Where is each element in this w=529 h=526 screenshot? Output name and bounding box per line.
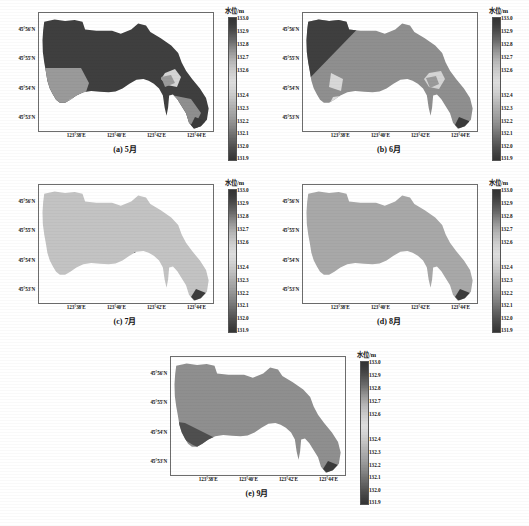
panel-c-region-main-body: [39, 185, 213, 303]
panel-d-cbtick-10: 132.0: [501, 315, 513, 321]
panel-b-plot-frame: [302, 12, 478, 132]
panel-e-cbtick-3: 132.7: [369, 398, 381, 404]
panel-a-cbtick-9: 132.1: [237, 130, 249, 136]
panel-b-ytick-0: 45°56'N: [282, 26, 302, 32]
panel-a-xtick-3: 123°44'E: [187, 132, 206, 138]
panel-d-caption: (d) 8月: [302, 315, 476, 326]
panel-b-cbtick-8: 132.2: [501, 118, 513, 124]
panel-b-ytick-3: 45°53'N: [282, 114, 302, 120]
panel-d-cbtick-4: 132.6: [501, 239, 513, 245]
panel-b-xtick-2: 123°42'E: [411, 132, 430, 138]
panel-a-xtick-2: 123°42'E: [147, 132, 166, 138]
panel-e-lake-shape: [171, 357, 345, 475]
panel-a-cbtick-8: 132.2: [237, 118, 249, 124]
panel-a-cbtick-2: 132.8: [237, 41, 249, 47]
panel-b-inner: 45°56'N 45°55'N 45°54'N 45°53'N 123°38'E…: [264, 0, 529, 150]
panel-b-cbtick-1: 132.9: [501, 28, 513, 34]
panel-b-ytick-2: 45°54'N: [282, 85, 302, 91]
panel-a-ytick-1: 45°55'N: [18, 55, 38, 61]
panel-a-region-southwest-lobe: [39, 68, 89, 105]
panel-e-xtick-3: 123°44'E: [319, 476, 338, 482]
panel-c-cbtick-8: 132.2: [237, 290, 249, 296]
panel-e-cbtick-4: 132.6: [369, 411, 381, 417]
panel-c-cbtick-6: 132.4: [237, 264, 249, 270]
panel-c-xaxis: 123°38'E 123°40'E 123°42'E 123°44'E: [38, 302, 212, 314]
panel-a-colorbar-title: 水位/m: [225, 6, 244, 15]
panel-b-xtick-0: 123°38'E: [331, 132, 350, 138]
panel-e-cbtick-10: 132.0: [369, 487, 381, 493]
panel-a-ytick-0: 45°56'N: [18, 26, 38, 32]
panel-e-ytick-1: 45°55'N: [150, 399, 170, 405]
panel-a-cbtick-7: 132.3: [237, 105, 249, 111]
panel-c-lake-shape: [39, 185, 213, 303]
panel-b-cbtick-2: 132.8: [501, 41, 513, 47]
panel-b-cbtick-11: 131.9: [501, 155, 513, 161]
panel-d-cbtick-9: 132.1: [501, 302, 513, 308]
panel-c-xtick-1: 123°40'E: [107, 304, 126, 310]
panel-c-cbtick-0: 133.0: [237, 187, 249, 193]
panel-e-cbtick-6: 132.4: [369, 436, 381, 442]
panel-e-plot-frame: [170, 356, 346, 476]
panel-a-may: 45°56'N 45°55'N 45°54'N 45°53'N 123°38'E…: [0, 0, 265, 168]
panel-c-cbtick-1: 132.9: [237, 200, 249, 206]
panel-d-colorbar-title: 水位/m: [489, 178, 508, 187]
panel-e-raster: [171, 357, 345, 475]
panel-d-plot-frame: [302, 184, 478, 304]
panel-c-xtick-3: 123°44'E: [187, 304, 206, 310]
panel-d-raster: [303, 185, 477, 303]
panel-d-cbtick-6: 132.4: [501, 264, 513, 270]
panel-d-colorbar-ticks: 133.0 132.9 132.8 132.7 132.6 132.4 132.…: [500, 189, 529, 331]
panel-a-cbtick-1: 132.9: [237, 28, 249, 34]
panel-b-raster: [303, 13, 477, 131]
panel-e-cbtick-8: 132.2: [369, 462, 381, 468]
panel-a-ytick-2: 45°54'N: [18, 85, 38, 91]
panel-c-region-center-speck: [134, 252, 136, 254]
panel-e-cbtick-1: 132.9: [369, 372, 381, 378]
panel-b-cbtick-7: 132.3: [501, 105, 513, 111]
panel-d-august: 45°56'N 45°55'N 45°54'N 45°53'N 123°38'E…: [264, 172, 529, 340]
panel-c-cbtick-4: 132.6: [237, 239, 249, 245]
panel-a-xtick-1: 123°40'E: [107, 132, 126, 138]
panel-e-xtick-2: 123°42'E: [279, 476, 298, 482]
panel-c-cbtick-2: 132.8: [237, 213, 249, 219]
panel-d-cbtick-3: 132.7: [501, 226, 513, 232]
panel-d-cbtick-1: 132.9: [501, 200, 513, 206]
panel-d-ytick-3: 45°53'N: [282, 286, 302, 292]
panel-b-cbtick-0: 133.0: [501, 15, 513, 21]
panel-a-inner: 45°56'N 45°55'N 45°54'N 45°53'N 123°38'E…: [0, 0, 265, 150]
panel-c-cbtick-11: 131.9: [237, 327, 249, 333]
panel-d-ytick-0: 45°56'N: [282, 198, 302, 204]
panel-d-cbtick-2: 132.8: [501, 213, 513, 219]
panel-e-cbtick-0: 133.0: [369, 359, 381, 365]
panel-a-lake-shape: [39, 13, 213, 131]
panel-c-inner: 45°56'N 45°55'N 45°54'N 45°53'N 123°38'E…: [0, 172, 265, 322]
panel-c-xtick-0: 123°38'E: [67, 304, 86, 310]
panel-c-colorbar-ticks: 133.0 132.9 132.8 132.7 132.6 132.4 132.…: [236, 189, 266, 331]
panel-a-caption: (a) 5月: [38, 143, 212, 154]
panel-d-region-main-body: [303, 185, 477, 303]
panel-c-plot-frame: [38, 184, 214, 304]
panel-e-xtick-1: 123°40'E: [239, 476, 258, 482]
panel-b-ytick-1: 45°55'N: [282, 55, 302, 61]
panel-e-inner: 45°56'N 45°55'N 45°54'N 45°53'N 123°38'E…: [132, 344, 397, 494]
panel-e-ytick-2: 45°54'N: [150, 429, 170, 435]
panel-d-xtick-3: 123°44'E: [451, 304, 470, 310]
panel-c-raster: [39, 185, 213, 303]
panel-a-xaxis: 123°38'E 123°40'E 123°42'E 123°44'E: [38, 130, 212, 142]
panel-d-cbtick-7: 132.3: [501, 277, 513, 283]
panel-d-cbtick-11: 131.9: [501, 327, 513, 333]
panel-c-cbtick-3: 132.7: [237, 226, 249, 232]
panel-c-ytick-0: 45°56'N: [18, 198, 38, 204]
panel-c-ytick-3: 45°53'N: [18, 286, 38, 292]
panel-d-cbtick-8: 132.2: [501, 290, 513, 296]
panel-a-colorbar-ticks: 133.0 132.9 132.8 132.7 132.6 132.4 132.…: [236, 17, 266, 159]
panel-e-september: 45°56'N 45°55'N 45°54'N 45°53'N 123°38'E…: [132, 344, 397, 512]
panel-c-cbtick-10: 132.0: [237, 315, 249, 321]
panel-b-cbtick-4: 132.6: [501, 67, 513, 73]
panel-d-xtick-2: 123°42'E: [411, 304, 430, 310]
panel-c-cbtick-9: 132.1: [237, 302, 249, 308]
panel-b-colorbar-ticks: 133.0 132.9 132.8 132.7 132.6 132.4 132.…: [500, 17, 529, 159]
panel-e-cbtick-2: 132.8: [369, 385, 381, 391]
panel-c-colorbar-title: 水位/m: [225, 178, 244, 187]
panel-d-xaxis: 123°38'E 123°40'E 123°42'E 123°44'E: [302, 302, 476, 314]
